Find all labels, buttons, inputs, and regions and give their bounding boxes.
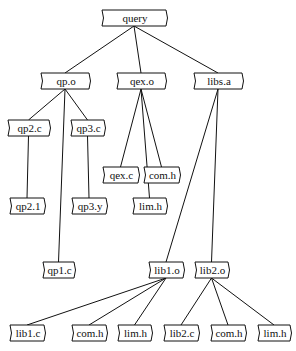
node-label: libs.a xyxy=(207,75,231,87)
edge-qp2_c-to-qp2_1 xyxy=(27,136,29,198)
edge-lib1_o-to-com_h2 xyxy=(89,278,166,325)
node-label: lib1.o xyxy=(154,264,180,276)
node-lib2-c: lib2.c xyxy=(164,325,200,341)
node-qex-c: qex.c xyxy=(103,167,140,183)
edge-lib2_o-to-com_h3 xyxy=(212,278,229,325)
node-label: qp3.y xyxy=(78,200,103,212)
node-qp2-1: qp2.1 xyxy=(10,198,46,214)
node-libs-a: libs.a xyxy=(194,73,244,89)
node-label: query xyxy=(122,12,148,24)
node-com-h2: com.h xyxy=(72,325,108,341)
node-label: lib2.c xyxy=(170,327,195,339)
node-lim-h1: lim.h xyxy=(133,198,168,214)
node-label: qp3.c xyxy=(76,122,100,134)
node-lib2-o: lib2.o xyxy=(195,262,230,278)
node-qp1-c: qp1.c xyxy=(43,262,76,278)
node-label: lim.h xyxy=(139,200,162,212)
edge-libs_a-to-lib2_o xyxy=(212,89,219,262)
dependency-tree-diagram: queryqp.oqex.olibs.aqp2.cqp3.cqex.ccom.h… xyxy=(0,0,296,351)
edge-lib2_o-to-lib2_c xyxy=(181,278,212,325)
node-label: qp2.c xyxy=(17,122,41,134)
edge-qp3_c-to-qp3_y xyxy=(88,136,90,198)
node-label: qp.o xyxy=(56,75,76,87)
edge-query-to-libs_a xyxy=(134,26,218,73)
node-query: query xyxy=(102,10,168,26)
node-lib1-o: lib1.o xyxy=(149,262,185,278)
node-lim-h3: lim.h xyxy=(258,325,292,341)
node-label: lib2.o xyxy=(200,264,226,276)
node-qp-o: qp.o xyxy=(41,73,91,89)
node-lib1-c: lib1.c xyxy=(10,325,46,341)
node-com-h1: com.h xyxy=(144,167,181,183)
edge-query-to-qex_o xyxy=(134,26,141,73)
node-label: qex.c xyxy=(110,169,134,181)
node-label: com.h xyxy=(149,169,177,181)
nodes-layer: queryqp.oqex.olibs.aqp2.cqp3.cqex.ccom.h… xyxy=(8,10,292,341)
edge-lib1_o-to-lim_h2 xyxy=(135,278,167,325)
edge-lib1_o-to-lib1_c xyxy=(27,278,166,325)
node-lim-h2: lim.h xyxy=(118,325,153,341)
node-label: lim.h xyxy=(264,327,287,339)
edge-qp_o-to-qp1_c xyxy=(59,89,66,262)
node-label: qp2.1 xyxy=(16,200,41,212)
node-qex-o: qex.o xyxy=(117,73,167,89)
edge-qp_o-to-qp2_c xyxy=(29,89,66,120)
node-label: com.h xyxy=(215,327,243,339)
node-qp2-c: qp2.c xyxy=(8,120,51,136)
edge-query-to-qp_o xyxy=(65,26,134,73)
edge-lib2_o-to-lim_h3 xyxy=(212,278,275,325)
node-label: lib1.c xyxy=(16,327,41,339)
node-label: lim.h xyxy=(124,327,147,339)
node-com-h3: com.h xyxy=(211,325,247,341)
node-qp3-c: qp3.c xyxy=(71,120,106,136)
node-qp3-y: qp3.y xyxy=(72,198,108,214)
edge-qex_o-to-qex_c xyxy=(121,89,142,167)
node-label: com.h xyxy=(76,327,104,339)
edge-qp_o-to-qp3_c xyxy=(65,89,88,120)
node-label: qex.o xyxy=(130,75,155,87)
node-label: qp1.c xyxy=(47,264,71,276)
